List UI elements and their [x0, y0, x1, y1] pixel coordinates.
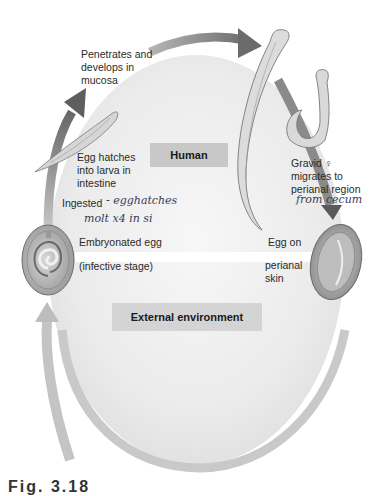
region-human-label: Human	[150, 143, 228, 167]
region-external-label: External environment	[112, 303, 262, 331]
label-line: Egg hatches	[77, 151, 135, 164]
handwritten-note-from-cecum: from cecum	[296, 193, 362, 207]
label-line: intestine	[77, 177, 135, 190]
label-ingested: Ingested	[62, 197, 102, 210]
figure-caption-partial: Fig. 3.18	[8, 478, 90, 496]
label-line: perianal	[265, 259, 302, 272]
label-line: Gravid ♀	[291, 157, 360, 170]
handwritten-note-egg-hatches: - egghatches	[106, 194, 177, 208]
label-gravid: Gravid ♀ migrates to perianal region	[291, 157, 360, 196]
embryonated-egg-illustration	[22, 225, 74, 295]
label-perianal-skin: perianal skin	[265, 259, 302, 285]
label-line: into larva in	[77, 164, 135, 177]
label-egg-hatches: Egg hatches into larva in intestine	[77, 151, 135, 190]
handwritten-note-molt: molt x4 in si	[84, 212, 152, 226]
label-penetrates: Penetrates and develops in mucosa	[81, 48, 152, 87]
label-infective-stage: (infective stage)	[79, 260, 153, 273]
label-line: migrates to	[291, 170, 360, 183]
label-line: develops in	[81, 61, 152, 74]
label-line: mucosa	[81, 74, 152, 87]
label-line: skin	[265, 272, 302, 285]
label-egg-on: Egg on	[268, 236, 301, 249]
label-embryonated-egg: Embryonated egg	[79, 236, 162, 249]
label-line: Penetrates and	[81, 48, 152, 61]
arrow-top	[150, 28, 262, 58]
